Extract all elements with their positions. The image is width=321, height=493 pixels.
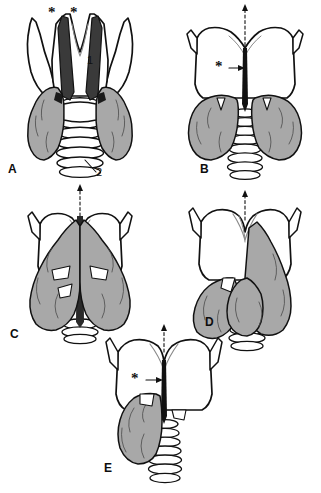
superior-horn-right-b — [293, 30, 303, 54]
superior-horn-left-c — [28, 212, 40, 240]
callout-number-2: 2 — [96, 167, 102, 178]
panel-b: * B — [161, 0, 321, 195]
superior-horn-left-d — [189, 208, 201, 238]
isthmus-a — [64, 102, 96, 122]
callout-number-1: 1 — [87, 55, 93, 66]
dashed-arrow-head-d — [242, 190, 248, 197]
dashed-arrow-head-c — [77, 184, 83, 191]
panel-a-drawing — [0, 0, 160, 195]
dashed-arrow-head-e — [161, 324, 167, 331]
panel-letter-a: A — [8, 163, 17, 175]
panel-e: * E — [80, 322, 240, 493]
panel-letter-b: B — [200, 163, 209, 175]
superior-horn-left-e — [106, 338, 118, 370]
panel-letter-c: C — [10, 328, 19, 340]
panel-a: * * 1 2 A — [0, 0, 160, 195]
panel-letter-e: E — [104, 462, 112, 474]
figure-root: * * 1 2 A — [0, 0, 321, 493]
asterisk-marker-a-2: * — [70, 5, 78, 20]
superior-horn-right-d — [289, 208, 301, 238]
asterisk-marker-b: * — [215, 59, 223, 74]
superior-horn-left-b — [187, 30, 197, 54]
dashed-arrow-head-b — [242, 4, 248, 11]
asterisk-marker-a-1: * — [48, 5, 56, 20]
superior-horn-right-c — [120, 212, 132, 240]
midline-wedge-b — [242, 48, 248, 112]
superior-horn-right-e — [210, 338, 222, 370]
asterisk-marker-e: * — [131, 371, 139, 386]
panel-b-drawing — [161, 0, 321, 195]
